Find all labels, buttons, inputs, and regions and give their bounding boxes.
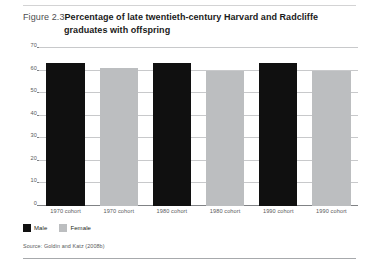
x-axis-label: 1970 cohort: [39, 208, 92, 215]
legend-swatch-male: [23, 224, 31, 232]
bar-female-1990[interactable]: [312, 71, 350, 206]
y-tick-label-40: 40: [31, 110, 37, 116]
bars-group: [39, 48, 358, 206]
y-tick-label-20: 20: [31, 155, 37, 161]
bar-female-1970[interactable]: [100, 68, 138, 206]
legend-item-male[interactable]: Male: [23, 224, 47, 232]
source-note: Source: Goldin and Katz (2008b): [23, 243, 105, 250]
bar-male-1990[interactable]: [259, 63, 297, 206]
y-tick-label-70: 70: [31, 42, 37, 48]
legend-swatch-female: [59, 224, 67, 232]
y-tick-label-50: 50: [31, 87, 37, 93]
x-axis-labels: 1970 cohort1970 cohort1980 cohort1980 co…: [39, 208, 358, 215]
x-axis-label: 1990 cohort: [252, 208, 305, 215]
figure-title-line-1: Percentage of late twentieth-century Har…: [65, 12, 318, 22]
legend-item-female[interactable]: Female: [59, 224, 91, 232]
figure-header-line-1: Figure 2.3Percentage of late twentieth-c…: [23, 9, 358, 24]
y-tick-label-30: 30: [31, 132, 37, 138]
x-axis-label: 1980 cohort: [199, 208, 252, 215]
bar-male-1970[interactable]: [46, 63, 84, 206]
legend-label-female: Female: [70, 224, 91, 232]
x-axis-label: 1970 cohort: [92, 208, 145, 215]
bar-slot: [252, 48, 305, 206]
bar-slot: [199, 48, 252, 206]
figure-title-line-2: graduates with offspring: [23, 24, 358, 36]
bar-chart: 010203040506070: [23, 44, 358, 206]
y-tick-label-10: 10: [31, 177, 37, 183]
bar-slot: [39, 48, 92, 206]
x-axis-label: 1990 cohort: [305, 208, 358, 215]
figure-container: Figure 2.3Percentage of late twentieth-c…: [0, 0, 378, 272]
bottom-divider: [23, 258, 356, 259]
y-tick-label-0: 0: [34, 200, 37, 206]
top-divider: [23, 5, 356, 6]
bar-female-1980[interactable]: [206, 71, 244, 206]
bar-slot: [92, 48, 145, 206]
figure-number: Figure 2.3: [23, 12, 65, 22]
bar-slot: [145, 48, 198, 206]
x-axis-label: 1980 cohort: [145, 208, 198, 215]
plot-area: 010203040506070: [39, 48, 358, 206]
bar-male-1980[interactable]: [153, 63, 191, 206]
chart-legend: MaleFemale: [23, 224, 103, 232]
legend-label-male: Male: [34, 224, 47, 232]
y-tick-label-60: 60: [31, 65, 37, 71]
bar-slot: [305, 48, 358, 206]
figure-header: Figure 2.3Percentage of late twentieth-c…: [23, 9, 358, 36]
